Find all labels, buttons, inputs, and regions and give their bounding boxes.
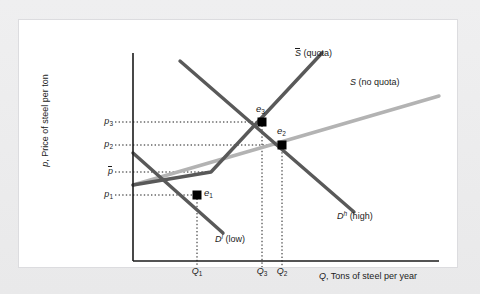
x-tick-Q1-variable: Q [192,266,199,276]
supply-demand-plot [19,20,459,269]
figure-card: p, Price of steel per ton Q, Tons of ste… [18,19,458,268]
point-label-e1-subscript: 1 [209,192,213,199]
x-tick-Q2-variable: Q [277,266,284,276]
x-tick-Q3-variable: Q [257,266,264,276]
curve-label-supply-no-quota: S (no quota) [350,78,400,87]
y-tick-p2: p2 [89,140,113,149]
curve-label-supply-quota-variable: S [295,49,301,58]
y-tick-pbar-variable: p [108,167,113,176]
curve-label-supply-quota: S (quota) [295,49,332,58]
curve-label-supply-quota-text: (quota) [301,48,332,58]
curve-label-demand-low-superscript: l [222,233,223,240]
y-axis-title-variable: p [40,162,50,167]
equilibrium-marker-e1 [193,191,202,200]
y-tick-p3-subscript: 3 [109,120,113,127]
y-axis-title: p, Price of steel per ton [41,51,50,191]
y-tick-p3: p3 [89,117,113,126]
x-axis-title-text: , Tons of steel per year [326,271,417,281]
x-tick-Q1-subscript: 1 [199,270,203,277]
equilibrium-marker-e3 [258,118,267,127]
y-tick-p1: p1 [89,190,113,199]
point-label-e3-subscript: 3 [261,108,265,115]
x-tick-Q2: Q2 [270,267,294,276]
point-label-e2: e2 [277,126,286,136]
y-axis-title-text: , Price of steel per ton [40,74,50,162]
curve-label-demand-high-superscript: h [344,210,348,217]
point-label-e1: e1 [204,188,213,198]
figure-page: p, Price of steel per ton Q, Tons of ste… [0,0,480,294]
x-tick-Q3-subscript: 3 [264,270,268,277]
curve-label-supply-no-quota-text: (no quota) [356,77,400,87]
x-tick-Q1: Q1 [185,267,209,276]
curve-label-demand-low: Dl (low) [215,235,245,244]
point-label-e2-subscript: 2 [282,130,286,137]
x-axis-title-variable: Q [319,271,326,281]
y-tick-pbar: p [89,167,113,176]
curve-label-demand-low-text: (low) [223,234,245,244]
x-axis-title: Q, Tons of steel per year [319,272,417,281]
x-tick-Q2-subscript: 2 [284,270,288,277]
supply-curve-quota [133,53,322,185]
y-tick-p1-subscript: 1 [109,193,113,200]
curve-label-demand-high: Dh (high) [337,212,373,221]
y-tick-p2-subscript: 2 [109,143,113,150]
point-label-e3: e3 [256,104,265,114]
equilibrium-marker-e2 [278,141,287,150]
curve-label-demand-high-text: (high) [347,211,373,221]
